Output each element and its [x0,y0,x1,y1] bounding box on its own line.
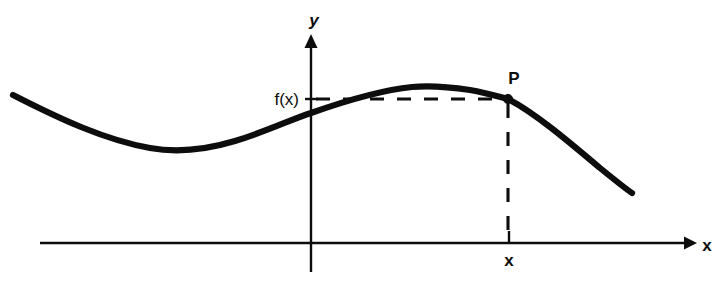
function-graph-figure: y x f(x) P x [0,0,721,284]
x-axis-arrowhead [684,237,697,250]
point-p-marker [503,94,512,103]
y-axis-arrowhead [305,34,318,48]
point-label: P [508,69,519,88]
graph-canvas: y x f(x) P x [0,0,721,284]
x-axis-label: x [702,236,712,255]
y-axis-label: y [308,11,320,30]
x-value-label: x [504,251,514,270]
function-curve [13,86,632,193]
function-value-label: f(x) [274,90,299,109]
